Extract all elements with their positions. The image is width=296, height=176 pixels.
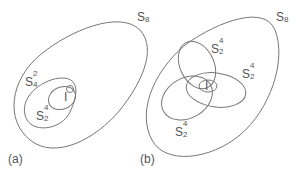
panel-a-inner-label: S42 [36,110,44,122]
panel-a-outer-label: S8 [137,11,145,23]
panel-a-identity-label: I [64,91,67,103]
panel-b-left-ellipse-label: S42 [175,126,183,138]
panel-b-outer-label: S8 [276,11,284,23]
panel-b-right-ellipse-label: S42 [242,68,250,80]
panel-b-ellipse-right [184,69,248,111]
panel-b-shapes [146,17,279,156]
panel-a-middle-label: S24 [25,76,33,88]
diagram-canvas [0,0,296,176]
panel-b-outer-s8 [146,17,279,156]
panel-b-top-ellipse-label: S42 [211,43,219,55]
panel-b-identity-label: I [205,80,208,92]
panel-a-caption: (a) [8,153,23,165]
panel-b-caption: (b) [140,153,155,165]
panel-a-inner-s2-4 [45,82,80,114]
